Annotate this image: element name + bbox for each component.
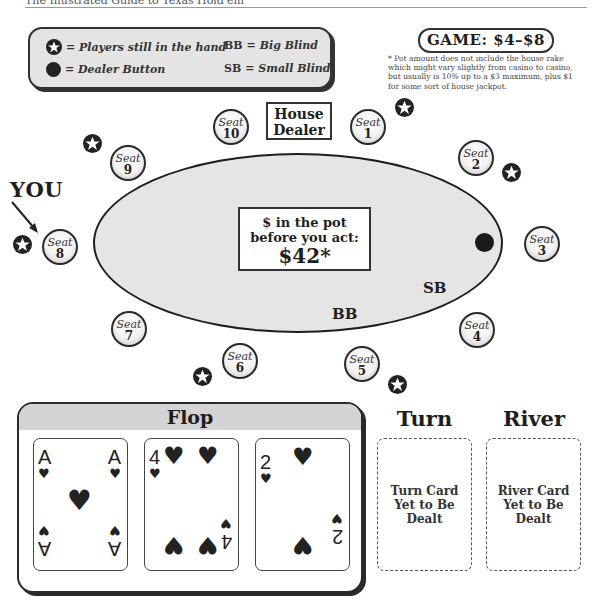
legend-item-players-in-hand: = Players still in the hand: [46, 39, 226, 55]
star-icon-seat-8: [13, 235, 32, 254]
arrow-icon: [10, 200, 42, 236]
seat-7: Seat7: [111, 311, 147, 347]
seat-5: Seat5: [344, 346, 380, 382]
pot-amount: $42*: [240, 245, 369, 268]
flop-title: Flop: [19, 404, 361, 430]
flop-card-1: A ♥ A ♥ ♥ ♥ A ♥ A: [33, 438, 128, 571]
pot-footnote: * Pot amount does not include the house …: [388, 54, 580, 91]
pot-label-line2: before you act:: [240, 230, 369, 245]
seat-10: Seat10: [213, 109, 249, 145]
heart-icon: ♥: [292, 531, 314, 559]
legend-item-big-blind: BB = Big Blind: [224, 39, 318, 52]
house-dealer-box: House Dealer: [266, 102, 332, 140]
seat-1: Seat1: [350, 109, 386, 145]
heart-icon: ♥: [38, 523, 50, 538]
seat-2: Seat2: [458, 140, 494, 176]
heart-icon: ♥: [292, 443, 314, 471]
legend-item-small-blind: SB = Small Blind: [224, 62, 331, 75]
heart-icon: ♥: [109, 523, 121, 538]
pot-label-line1: $ in the pot: [240, 215, 369, 230]
star-icon-seat-6: [193, 367, 212, 386]
heart-icon: ♥: [197, 442, 219, 470]
game-limit-badge: GAME: $4–$8: [418, 28, 554, 53]
flop-card-3: 2 ♥ ♥ ♥ ♥ 2: [255, 438, 350, 571]
heart-icon: ♥: [163, 531, 185, 559]
flop-card-2: 4 ♥ ♥ ♥ ♥ ♥ ♥ 4: [144, 438, 239, 571]
turn-title: Turn: [377, 406, 472, 431]
heart-icon: ♥: [163, 442, 185, 470]
page-header-text: The Illustrated Guide to Texas Hold'em: [25, 0, 244, 7]
pot-box: $ in the pot before you act: $42*: [238, 207, 371, 271]
heart-icon: ♥: [260, 471, 272, 486]
star-icon-seat-5: [388, 375, 407, 394]
dealer-button-icon: [46, 62, 61, 77]
star-icon-seat-9: [83, 134, 102, 153]
river-title: River: [486, 406, 582, 431]
heart-icon: ♥: [38, 466, 50, 481]
seat-9: Seat9: [110, 145, 146, 181]
big-blind-label: BB: [332, 305, 357, 323]
heart-icon: ♥: [67, 484, 92, 517]
dealer-button: [475, 233, 494, 252]
header-rule: [25, 7, 587, 8]
heart-icon: ♥: [109, 466, 121, 481]
seat-6: Seat6: [222, 343, 258, 379]
seat-4: Seat4: [459, 312, 495, 348]
star-icon: [46, 39, 62, 55]
you-label: YOU: [10, 177, 63, 202]
small-blind-label: SB: [423, 279, 447, 297]
star-icon-seat-2: [502, 163, 521, 182]
heart-icon: ♥: [331, 511, 343, 526]
heart-icon: ♥: [149, 466, 161, 481]
seat-3: Seat3: [524, 226, 560, 262]
legend-item-dealer-button: = Dealer Button: [46, 62, 165, 77]
star-icon-seat-1: [395, 98, 414, 117]
heart-icon: ♥: [220, 516, 232, 531]
heart-icon: ♥: [197, 531, 219, 559]
river-card-placeholder: River Card Yet to Be Dealt: [486, 438, 581, 571]
turn-card-placeholder: Turn Card Yet to Be Dealt: [377, 438, 472, 571]
seat-8: Seat8: [42, 229, 78, 265]
legend-box: = Players still in the hand = Dealer But…: [28, 27, 332, 89]
